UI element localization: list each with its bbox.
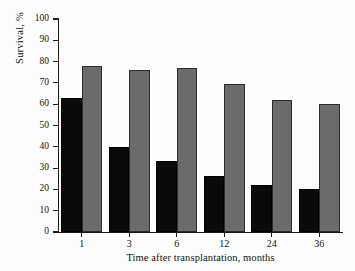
bar-black-series-12 xyxy=(204,176,225,232)
bar-black-series-3 xyxy=(109,147,130,232)
y-axis-tick-label: 80 xyxy=(9,57,49,67)
bar-gray-series-3 xyxy=(129,70,150,232)
bar-chart-figure: Survival, % 0102030405060708090100 13612… xyxy=(0,0,355,271)
y-axis-tick-label: 100 xyxy=(9,14,49,24)
x-axis-line xyxy=(58,232,343,233)
bar-black-series-1 xyxy=(61,98,82,232)
bar-gray-series-1 xyxy=(82,66,103,232)
x-axis-tick-label: 1 xyxy=(62,238,102,249)
y-axis-tick-label: 40 xyxy=(9,142,49,152)
x-axis-tick-label: 36 xyxy=(299,238,339,249)
x-axis-tick xyxy=(319,233,320,237)
bar-gray-series-6 xyxy=(177,68,198,232)
y-axis-tick-label: 70 xyxy=(9,78,49,88)
x-axis-tick-label: 3 xyxy=(109,238,149,249)
bar-gray-series-36 xyxy=(319,104,340,232)
x-axis-tick xyxy=(224,233,225,237)
y-axis-tick-label: 60 xyxy=(9,99,49,109)
x-axis-tick xyxy=(81,233,82,237)
x-axis-tick-label: 24 xyxy=(252,238,292,249)
y-axis-tick-label: 50 xyxy=(9,121,49,131)
y-axis-tick-label: 0 xyxy=(9,227,49,237)
x-axis-tick xyxy=(129,233,130,237)
y-axis-tick-label: 90 xyxy=(9,35,49,45)
bar-black-series-24 xyxy=(251,185,272,232)
x-axis-tick xyxy=(176,233,177,237)
y-axis-tick-label: 10 xyxy=(9,206,49,216)
x-axis-tick-label: 12 xyxy=(204,238,244,249)
x-axis-tick xyxy=(271,233,272,237)
y-axis-tick-label: 20 xyxy=(9,184,49,194)
bar-black-series-36 xyxy=(299,189,320,232)
bars-layer xyxy=(58,19,343,232)
bar-gray-series-24 xyxy=(272,100,293,232)
bar-gray-series-12 xyxy=(224,84,245,232)
x-axis-title: Time after transplantation, months xyxy=(58,252,343,263)
y-axis-tick-label: 30 xyxy=(9,163,49,173)
x-axis-tick-label: 6 xyxy=(157,238,197,249)
bar-black-series-6 xyxy=(156,161,177,232)
